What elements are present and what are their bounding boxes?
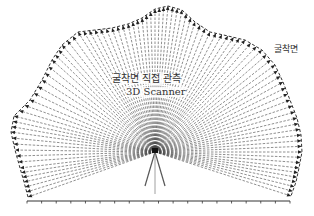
scanner-label: 3D Scanner	[126, 87, 186, 97]
excavation-surface-label: 굴착면	[274, 45, 298, 54]
excavation-surface-outline	[11, 6, 302, 197]
scan-diagram: 굴착면 직접 관측 3D Scanner 굴착면	[0, 0, 314, 216]
scan-rays	[11, 6, 302, 197]
ground-line	[27, 201, 290, 204]
direct-observation-label: 굴착면 직접 관측	[112, 74, 181, 84]
diagram-canvas	[0, 0, 314, 216]
tripod-scanner-icon	[145, 148, 165, 194]
